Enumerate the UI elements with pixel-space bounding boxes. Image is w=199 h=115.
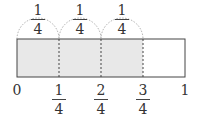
- axis-label-start: 0: [10, 83, 24, 97]
- axis-label-end: 1: [178, 83, 192, 97]
- denominator: 4: [91, 102, 111, 115]
- arc-label-1: 1 4: [28, 3, 48, 36]
- numerator: 1: [28, 3, 48, 17]
- numerator: 3: [133, 83, 153, 97]
- tick-label-2: 2 4: [91, 83, 111, 115]
- fraction-bar: [73, 19, 87, 20]
- numerator: 2: [91, 83, 111, 97]
- denominator: 4: [49, 102, 69, 115]
- denominator: 4: [112, 22, 132, 36]
- fraction-bar: [31, 19, 45, 20]
- fraction-bar: [136, 99, 150, 100]
- numerator: 1: [112, 3, 132, 17]
- denominator: 4: [70, 22, 90, 36]
- numerator: 1: [70, 3, 90, 17]
- arc-label-3: 1 4: [112, 3, 132, 36]
- denominator: 4: [133, 102, 153, 115]
- fraction-bar: [94, 99, 108, 100]
- denominator: 4: [28, 22, 48, 36]
- arc-label-2: 1 4: [70, 3, 90, 36]
- shaded-region: [17, 39, 143, 77]
- fraction-bar: [52, 99, 66, 100]
- tick-label-3: 3 4: [133, 83, 153, 115]
- tick-label-1: 1 4: [49, 83, 69, 115]
- fraction-bar: [115, 19, 129, 20]
- numerator: 1: [49, 83, 69, 97]
